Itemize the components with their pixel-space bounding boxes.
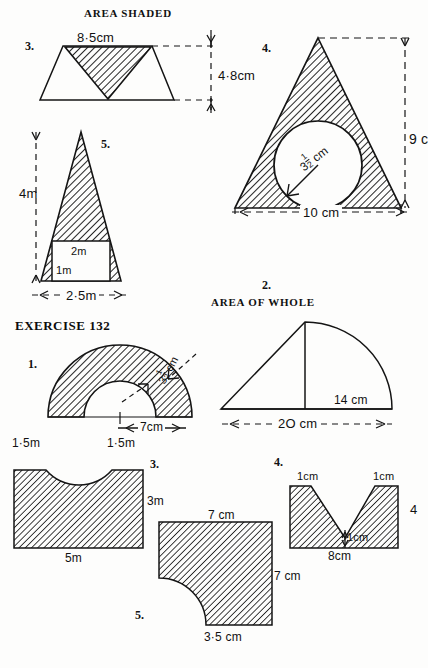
label-q4-height: 9 c	[409, 131, 428, 147]
label-q3-top-length: 8·5cm	[77, 30, 114, 45]
question-number-area-shaded-3: 3.	[25, 39, 34, 54]
figure-q5-triangle-rect-hole	[32, 132, 128, 299]
label-ex4-height: 4	[410, 502, 417, 517]
figure-q4-triangle-circle	[232, 38, 412, 216]
label-ex3-base: 5m	[65, 551, 82, 565]
figure-ex5-square-quarter-removed	[159, 522, 272, 625]
heading-exercise-132: EXERCISE 132	[15, 318, 110, 334]
label-ex4-right-top: 1cm	[373, 470, 394, 482]
heading-area-of-whole: AREA OF WHOLE	[211, 296, 315, 308]
label-q5-base: 2·5m	[63, 288, 99, 303]
question-number-ex-1: 1.	[28, 357, 37, 372]
question-number-area-shaded-4: 4.	[262, 41, 271, 56]
figure-q2-triangle-quarter-circle	[221, 322, 392, 428]
label-q2-total-base: 2O cm	[275, 416, 320, 431]
label-ex5-top: 7 cm	[208, 508, 235, 522]
question-number-ex-4: 4.	[274, 455, 283, 470]
label-q5-inner-height: 1m	[56, 264, 72, 276]
label-q4-base: 10 cm	[300, 205, 342, 220]
label-ex3-left-top: 1·5m	[12, 436, 40, 450]
heading-area-shaded: AREA SHADED	[84, 7, 172, 19]
figure-ex4-v-notch	[290, 486, 398, 548]
label-ex4-notch-depth: 1cm	[347, 531, 368, 543]
label-ex3-right-top: 1·5m	[107, 436, 135, 450]
label-ex5-bottom: 3·5 cm	[204, 630, 242, 644]
question-number-ex-3: 3.	[150, 457, 159, 472]
label-q3-height: 4·8cm	[218, 68, 255, 83]
label-q2-right-part: 14 cm	[334, 393, 368, 407]
label-ex5-right: 7 cm	[274, 569, 301, 583]
label-q5-height: 4m	[19, 186, 37, 201]
label-ex3-height: 3m	[147, 494, 164, 508]
question-number-area-of-whole-2: 2.	[262, 278, 271, 293]
figure-q3-trapezium	[40, 30, 218, 118]
label-ex4-base: 8cm	[328, 549, 351, 563]
label-q5-inner-width: 2m	[71, 245, 87, 257]
question-number-area-shaded-5: 5.	[101, 137, 110, 152]
label-ex4-left-top: 1cm	[297, 470, 318, 482]
figure-ex3-rect-notch	[14, 470, 143, 548]
label-ex1-inner-radius: 7cm	[138, 420, 165, 434]
question-number-ex-5: 5.	[135, 608, 144, 623]
